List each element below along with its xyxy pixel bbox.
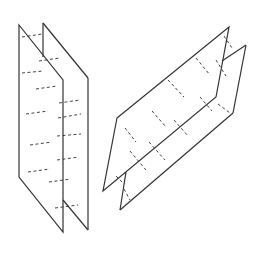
hidden-line [58, 114, 81, 118]
hidden-line [152, 111, 166, 127]
hidden-line [218, 104, 230, 113]
hidden-line [196, 58, 210, 75]
hidden-line [124, 189, 130, 200]
hidden-line [26, 111, 48, 114]
slanted-planes [103, 27, 246, 210]
back-plane-edge [43, 23, 88, 78]
hidden-line [36, 86, 57, 89]
upper-plane [103, 27, 229, 191]
hidden-line [57, 157, 79, 160]
hidden-line [55, 205, 78, 208]
hidden-line [28, 169, 50, 172]
hidden-line [30, 142, 52, 145]
lower-plane-edge [120, 113, 233, 210]
diagram-canvas [0, 0, 261, 253]
hidden-line [59, 100, 80, 103]
front-plane [19, 25, 63, 232]
lower-plane-edge [233, 45, 246, 113]
hidden-line [125, 128, 136, 142]
hidden-line [49, 179, 71, 182]
back-plane-edge [63, 200, 88, 230]
hidden-line [168, 80, 184, 97]
hidden-line [22, 71, 43, 73]
hidden-line [22, 34, 42, 37]
hidden-line [57, 134, 81, 136]
parallel-vertical-planes [19, 23, 88, 232]
hidden-line [39, 58, 60, 61]
